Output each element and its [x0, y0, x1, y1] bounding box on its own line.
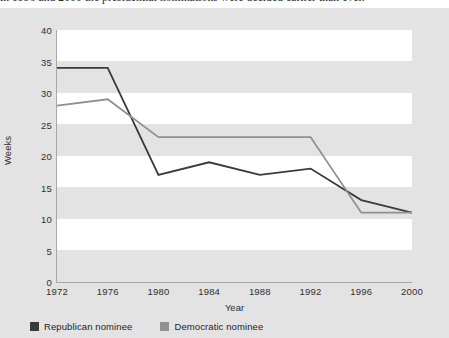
chart-legend: Republican nomineeDemocratic nominee [30, 318, 291, 334]
x-axis-tick-2000: 2000 [392, 286, 432, 297]
x-axis-tick-1984: 1984 [189, 286, 229, 297]
x-axis-tick-1996: 1996 [341, 286, 381, 297]
chart-figure: 0510152025303540 Weeks 19721976198019841… [0, 8, 449, 338]
x-axis-tick-1972: 1972 [37, 286, 77, 297]
line-series-democratic [57, 99, 412, 212]
y-axis-tick-15: 15 [6, 182, 52, 193]
y-axis-tick-40: 40 [6, 25, 52, 36]
legend-label: Republican nominee [44, 321, 132, 332]
legend-item-democratic[interactable]: Democratic nominee [160, 321, 263, 332]
x-axis-tick-1988: 1988 [240, 286, 280, 297]
x-axis-tick-labels: 19721976198019841988199219962000 [57, 286, 412, 300]
x-axis-title: Year [57, 302, 412, 313]
y-axis-line [56, 30, 57, 283]
x-axis-tick-1992: 1992 [291, 286, 331, 297]
legend-swatch-republican [30, 322, 39, 331]
y-axis-tick-10: 10 [6, 214, 52, 225]
legend-swatch-democratic [160, 322, 169, 331]
legend-item-republican[interactable]: Republican nominee [30, 321, 132, 332]
y-axis-tick-20: 20 [6, 151, 52, 162]
legend-label: Democratic nominee [174, 321, 263, 332]
y-axis-title: Weeks [2, 121, 13, 181]
plot-lines [57, 30, 412, 282]
x-axis-line [56, 282, 412, 283]
line-series-republican [57, 68, 412, 213]
x-axis-tick-1976: 1976 [88, 286, 128, 297]
y-axis-tick-5: 5 [6, 245, 52, 256]
y-axis-tick-30: 30 [6, 88, 52, 99]
caption-text: in 1996 and 2000 the presidential nomina… [0, 0, 449, 5]
x-axis-tick-1980: 1980 [138, 286, 178, 297]
y-axis-tick-25: 25 [6, 119, 52, 130]
y-axis-tick-35: 35 [6, 56, 52, 67]
plot-area [57, 30, 412, 282]
figure-page: in 1996 and 2000 the presidential nomina… [0, 0, 449, 338]
